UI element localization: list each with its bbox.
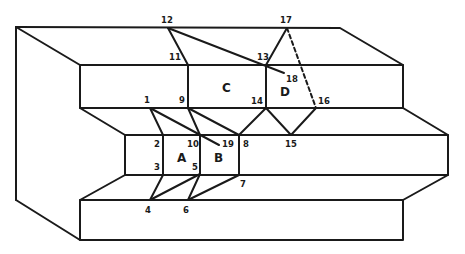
region-label-c: C	[222, 81, 231, 95]
upper-right-step	[403, 108, 448, 135]
point-label-9: 9	[179, 95, 185, 105]
point-label-5: 5	[192, 162, 198, 172]
point-label-2: 2	[154, 139, 160, 149]
point-label-13: 13	[257, 52, 269, 62]
point-label-8: 8	[243, 139, 249, 149]
point-label-19: 19	[222, 139, 234, 149]
point-label-12: 12	[161, 15, 173, 25]
point-label-10: 10	[187, 139, 199, 149]
region-label-d: D	[280, 85, 290, 99]
lower-left-step	[80, 175, 125, 200]
upper-slab-face	[80, 65, 403, 108]
line-6-7	[188, 175, 239, 200]
upper-left-step	[80, 108, 125, 135]
region-label-b: B	[214, 151, 223, 165]
outer-top-edge	[16, 27, 403, 65]
point-label-3: 3	[154, 162, 160, 172]
point-label-18: 18	[286, 74, 298, 84]
point-label-6: 6	[183, 205, 189, 215]
point-label-1: 1	[144, 95, 150, 105]
outer-left-diagonal-bottom	[16, 200, 80, 240]
block-outline	[16, 27, 448, 240]
point-label-14: 14	[251, 96, 263, 106]
line-17-16-dashed	[287, 28, 316, 108]
point-labels: 1 2 3 4 5 6 7 8 9 10 11 12 13 14 15 16 1…	[144, 15, 330, 215]
lower-slab-face	[80, 200, 403, 240]
line-9-8	[188, 108, 239, 135]
point-label-15: 15	[285, 139, 297, 149]
line-14-8	[239, 108, 266, 135]
line-1-19	[150, 108, 219, 145]
line-15-16	[291, 108, 316, 135]
point-label-4: 4	[145, 205, 151, 215]
outer-left-diagonal-top	[16, 27, 80, 65]
fold-diagram: 1 2 3 4 5 6 7 8 9 10 11 12 13 14 15 16 1…	[0, 0, 465, 254]
point-label-11: 11	[169, 52, 181, 62]
point-label-7: 7	[240, 179, 246, 189]
region-label-a: A	[177, 151, 187, 165]
point-label-17: 17	[280, 15, 292, 25]
point-label-16: 16	[318, 96, 330, 106]
line-14-15	[266, 108, 291, 135]
line-13-17	[266, 28, 287, 65]
lower-right-step	[403, 175, 448, 200]
